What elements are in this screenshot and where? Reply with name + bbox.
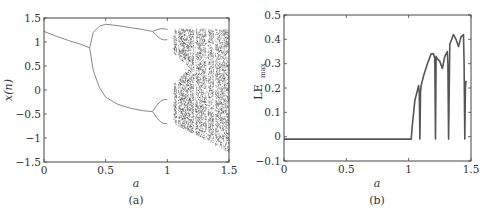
y-tick-label: 0: [34, 84, 41, 96]
y-tick-label: −1: [26, 132, 41, 144]
y-tick-label: −1.5: [16, 156, 42, 168]
y-tick-label: 0.2: [264, 82, 281, 94]
y-axis-label-a: x(n): [2, 79, 15, 101]
bifurcation-diagram-panel: 00.511.5−1.5−1−0.500.511.5 a x(n) (a): [2, 12, 237, 208]
y-tick-label: −0.1: [256, 155, 282, 167]
x-axis-label-a: a: [133, 177, 140, 190]
x-axis-label-b: a: [374, 177, 381, 190]
y-tick-label: 0.1: [264, 106, 281, 118]
branch-upper-branch: [90, 24, 153, 48]
x-tick-label: 0.5: [338, 163, 355, 175]
x-tick-label: 1.5: [221, 164, 238, 176]
y-tick-label: 1: [34, 36, 41, 48]
y-axis-label-b-sub: max: [259, 63, 267, 78]
axis-ticks-b: 00.511.5−0.100.10.20.30.40.5: [256, 9, 480, 176]
y-tick-label: 1.5: [24, 12, 41, 24]
lyapunov-exponent-panel: 00.511.5−0.100.10.20.30.40.5 a LE max (b…: [252, 9, 479, 208]
period-4-bubble: [153, 99, 168, 124]
x-tick-label: 1: [164, 164, 171, 176]
x-tick-label: 0: [281, 163, 288, 175]
y-tick-label: 0.4: [264, 33, 281, 45]
figure: 00.511.5−1.5−1−0.500.511.5 a x(n) (a) 00…: [0, 0, 485, 213]
x-tick-label: 0.5: [97, 164, 114, 176]
x-tick-label: 1: [405, 163, 412, 175]
axis-ticks-a: 00.511.5−1.5−1−0.500.511.5: [16, 12, 238, 177]
x-tick-label: 1.5: [463, 163, 480, 175]
x-tick-label: 0: [41, 164, 48, 176]
y-tick-label: 0: [274, 130, 281, 142]
y-tick-label: −0.5: [16, 108, 42, 120]
lyapunov-exponent-curve: [284, 35, 466, 140]
branch-fixed-point: [44, 31, 90, 47]
panel-label-a: (a): [128, 194, 143, 207]
chaotic-attractor-points: [174, 29, 230, 152]
y-tick-label: 0.5: [24, 60, 41, 72]
branch-lower-branch: [90, 48, 153, 112]
panel-label-b: (b): [369, 194, 385, 207]
y-axis-label-b-main: LE: [252, 84, 265, 99]
bifurcation-points: [44, 24, 230, 152]
y-tick-label: 0.5: [264, 9, 281, 21]
lyapunov-line: [284, 35, 466, 140]
period-4-bubble: [153, 29, 168, 40]
